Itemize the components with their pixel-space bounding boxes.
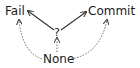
edge-none-to-commit <box>71 20 107 59</box>
edge-unknown-to-commit <box>61 12 86 30</box>
node-none: None <box>43 53 74 65</box>
node-fail: Fail <box>5 5 25 17</box>
node-unknown: ? <box>54 27 60 39</box>
edge-unknown-to-fail <box>28 11 54 30</box>
edge-none-to-fail <box>19 20 42 59</box>
state-diagram: Fail Commit ? None <box>0 0 140 68</box>
node-commit: Commit <box>88 5 135 17</box>
